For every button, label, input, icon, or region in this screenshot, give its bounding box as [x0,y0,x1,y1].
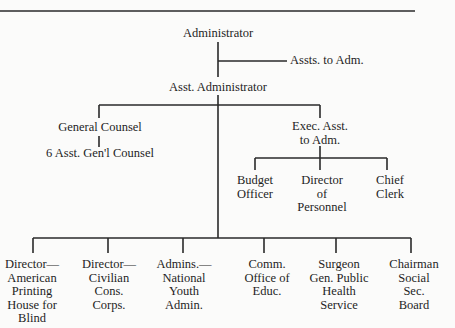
node-admins-nya: Admins.— National Youth Admin. [156,258,211,312]
node-surgeon-general: Surgeon Gen. Public Health Service [309,258,368,312]
node-administrator: Administrator [183,27,253,41]
node-assts-to-adm: Assts. to Adm. [290,54,364,68]
node-asst-administrator: Asst. Administrator [169,81,267,95]
node-comm-educ: Comm. Office of Educ. [244,258,289,299]
node-general-counsel: General Counsel [58,121,142,135]
connector-lines [0,0,455,328]
node-budget-officer: Budget Officer [237,174,273,201]
node-asst-gen-counsel: 6 Asst. Gen'l Counsel [46,147,154,161]
node-dir-printing-house: Director— American Printing House for Bl… [5,258,59,326]
node-exec-asst: Exec. Asst. to Adm. [292,120,348,147]
node-dir-ccc: Director— Civilian Cons. Corps. [82,258,136,312]
node-chairman-ssb: Chairman Social Sec. Board [389,258,438,312]
node-director-personnel: Director of Personnel [297,174,346,215]
node-chief-clerk: Chief Clerk [376,174,404,201]
